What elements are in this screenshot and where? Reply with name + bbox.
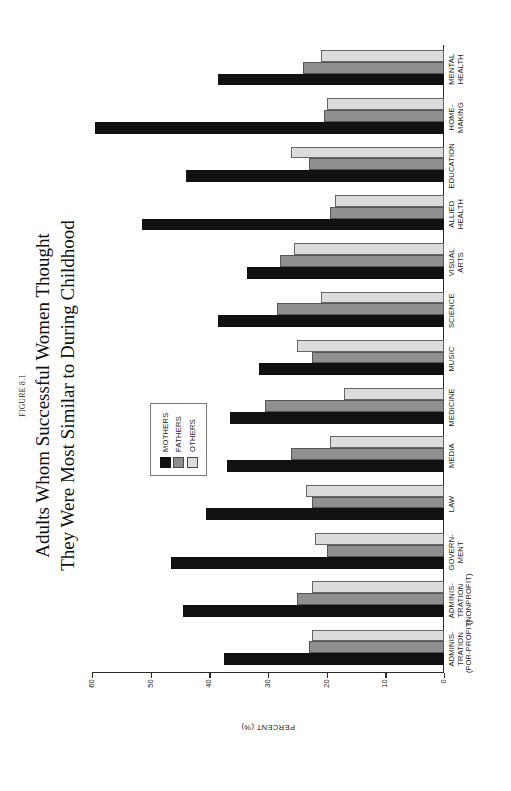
bar-mothers: [247, 267, 444, 279]
figure-title-line-2: They Were Most Similar to During Childho…: [55, 0, 80, 791]
bar-fathers: [291, 448, 444, 460]
bar-fathers: [327, 545, 444, 557]
y-axis-tick: [385, 673, 386, 678]
category-label: ADMINIS-TRATION(NONPROFIT): [448, 576, 474, 624]
category-label: ALLIEDHEALTH: [448, 190, 465, 238]
plot-area: PERCENT (%) 0102030405060 ADMINIS-TRATIO…: [92, 45, 444, 673]
category-label: MEDICINE: [448, 383, 457, 431]
category-label: GOVERN-MENT: [448, 528, 465, 576]
y-axis-tick: [151, 673, 152, 678]
category-label-line: SCIENCE: [448, 287, 457, 335]
bar-others: [321, 50, 444, 62]
bar-fathers: [265, 400, 444, 412]
category-label: MEDIA: [448, 431, 457, 479]
bar-others: [312, 581, 444, 593]
figure-page: FIGURE 8.1 Adults Whom Successful Women …: [0, 0, 511, 791]
rotated-figure-canvas: FIGURE 8.1 Adults Whom Successful Women …: [0, 0, 511, 791]
legend-label-mothers: MOTHERS: [161, 412, 170, 452]
bar-others: [321, 292, 444, 304]
y-axis-tick-label: 30: [263, 679, 272, 699]
category-label-line: MEDICINE: [448, 383, 457, 431]
bar-mothers: [218, 74, 444, 86]
bar-group: [92, 147, 444, 183]
y-axis-tick-label: 0: [439, 679, 448, 699]
y-axis-tick: [268, 673, 269, 678]
legend-item-fathers: FATHERS: [173, 412, 184, 468]
bar-others: [306, 485, 444, 497]
bar-fathers: [312, 352, 444, 364]
bar-others: [315, 533, 444, 545]
category-label-line: HEALTH: [457, 190, 466, 238]
bar-group: [92, 436, 444, 472]
category-label-line: LAW: [448, 480, 457, 528]
bar-others: [344, 388, 444, 400]
bar-others: [312, 630, 444, 642]
bar-group: [92, 485, 444, 521]
bar-mothers: [218, 315, 444, 327]
bar-group: [92, 630, 444, 666]
category-label-line: MAKING: [457, 93, 466, 141]
category-label: HOME-MAKING: [448, 93, 465, 141]
bar-mothers: [259, 363, 444, 375]
legend: MOTHERSFATHERSOTHERS: [150, 403, 207, 476]
bar-mothers: [183, 605, 444, 617]
category-label: LAW: [448, 480, 457, 528]
bar-group: [92, 292, 444, 328]
bar-others: [330, 436, 444, 448]
legend-label-others: OTHERS: [188, 419, 197, 452]
bar-fathers: [330, 207, 444, 219]
category-label: MENTALHEALTH: [448, 45, 465, 93]
y-axis-tick-label: 20: [322, 679, 331, 699]
bar-fathers: [324, 110, 444, 122]
bar-mothers: [186, 170, 444, 182]
bar-others: [335, 195, 444, 207]
y-axis-tick-label: 60: [87, 679, 96, 699]
bar-mothers: [230, 412, 444, 424]
bar-mothers: [142, 219, 444, 231]
bar-fathers: [297, 593, 444, 605]
bar-group: [92, 195, 444, 231]
category-label: SCIENCE: [448, 287, 457, 335]
figure-title-line-1: Adults Whom Successful Women Thought: [30, 0, 55, 791]
y-axis-tick: [327, 673, 328, 678]
category-label-line: HEALTH: [457, 45, 466, 93]
y-axis-tick: [209, 673, 210, 678]
y-axis-tick: [92, 673, 93, 678]
figure-number: FIGURE 8.1: [18, 0, 27, 791]
category-label-line: MENT: [457, 528, 466, 576]
bar-mothers: [95, 122, 444, 134]
legend-item-mothers: MOTHERS: [160, 412, 171, 468]
category-label-line: MEDIA: [448, 431, 457, 479]
bar-group: [92, 98, 444, 134]
y-axis-tick-label: 40: [204, 679, 213, 699]
y-axis-tick: [444, 673, 445, 678]
category-label-line: (NONPROFIT): [465, 576, 474, 624]
bar-group: [92, 243, 444, 279]
legend-item-others: OTHERS: [187, 412, 198, 468]
y-axis-title: PERCENT (%): [241, 723, 295, 732]
legend-swatch-fathers: [173, 457, 184, 468]
bar-fathers: [280, 255, 444, 267]
bar-group: [92, 50, 444, 86]
bar-group: [92, 533, 444, 569]
category-label-line: MUSIC: [448, 335, 457, 383]
bar-fathers: [309, 158, 444, 170]
category-label: EDUCATION: [448, 142, 457, 190]
bar-fathers: [277, 303, 444, 315]
category-label-line: EDUCATION: [448, 142, 457, 190]
bar-fathers: [303, 62, 444, 74]
bar-others: [297, 340, 444, 352]
bar-mothers: [227, 460, 444, 472]
bar-fathers: [309, 642, 444, 654]
bar-group: [92, 581, 444, 617]
bar-mothers: [171, 557, 444, 569]
legend-label-fathers: FATHERS: [174, 416, 183, 452]
legend-swatch-others: [187, 457, 198, 468]
figure-title: Adults Whom Successful Women Thought The…: [30, 0, 80, 791]
y-axis-tick-label: 50: [146, 679, 155, 699]
bar-mothers: [224, 653, 444, 665]
bar-others: [294, 243, 444, 255]
bar-fathers: [312, 497, 444, 509]
category-label: VISUALARTS: [448, 238, 465, 286]
category-label: ADMINIS-TRATION(FOR-PROFIT): [448, 625, 474, 673]
